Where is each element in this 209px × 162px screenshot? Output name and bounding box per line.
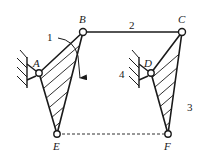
joint-c [179, 29, 186, 36]
label-link-3: 3 [187, 101, 193, 113]
link-1-body [30, 28, 100, 160]
joint-a [36, 70, 42, 76]
ground-support-d [129, 50, 148, 88]
label-joint-a: A [32, 57, 40, 69]
joints [36, 29, 186, 138]
ground-support-a [17, 50, 36, 88]
joint-e [54, 131, 60, 137]
label-joint-b: B [79, 13, 86, 25]
label-link-4: 4 [119, 68, 125, 80]
label-link-1: 1 [47, 31, 53, 43]
label-joint-e: E [52, 140, 60, 152]
label-joint-f: F [163, 140, 171, 152]
label-link-2: 2 [129, 19, 135, 31]
label-joint-c: C [178, 13, 186, 25]
joint-b [80, 29, 87, 36]
joint-d [148, 70, 154, 76]
label-joint-d: D [143, 57, 152, 69]
four-bar-linkage-diagram: A B C D E F 1 2 3 4 [0, 0, 209, 162]
joint-f [165, 131, 171, 137]
